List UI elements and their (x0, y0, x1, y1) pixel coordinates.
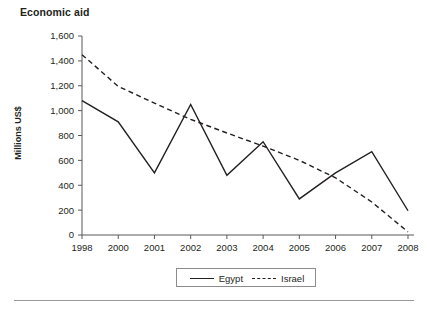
y-tick-label: 1,600 (50, 30, 74, 41)
solid-line-icon (190, 278, 214, 280)
y-tick-label: 200 (58, 205, 74, 216)
series-line-egypt (82, 101, 408, 211)
y-tick-label: 1,400 (50, 55, 74, 66)
y-tick-label: 1,200 (50, 80, 74, 91)
x-tick-label: 2003 (216, 242, 237, 253)
y-tick-label: 1,000 (50, 105, 74, 116)
y-tick-label: 0 (69, 229, 74, 240)
series-line-israel (82, 55, 408, 232)
legend-label-egypt: Egypt (219, 274, 243, 284)
y-tick-label: 400 (58, 180, 74, 191)
plot-area: 02004006008001,0001,2001,4001,600 199820… (0, 0, 427, 311)
x-tick-label: 2004 (253, 242, 274, 253)
y-axis-ticks: 02004006008001,0001,2001,4001,600 (50, 30, 82, 240)
x-axis-ticks: 1998200020012002200320042005200620072008 (71, 235, 418, 253)
legend-entry-egypt: Egypt (190, 274, 243, 284)
economic-aid-line-chart: Economic aid Millions US$ 02004006008001… (0, 0, 427, 311)
x-tick-label: 2001 (144, 242, 165, 253)
legend-entries: Egypt Israel (177, 269, 317, 288)
y-tick-label: 600 (58, 155, 74, 166)
y-tick-label: 800 (58, 130, 74, 141)
x-tick-label: 2008 (397, 242, 418, 253)
x-tick-label: 2007 (361, 242, 382, 253)
x-tick-label: 2006 (325, 242, 346, 253)
chart-legend: Egypt Israel (176, 268, 316, 287)
x-tick-label: 2005 (289, 242, 310, 253)
dashed-line-icon (252, 278, 276, 279)
legend-entry-israel: Israel (252, 274, 304, 284)
legend-label-israel: Israel (281, 274, 304, 284)
x-tick-label: 1998 (71, 242, 92, 253)
footer-divider (14, 300, 414, 301)
x-tick-label: 2002 (180, 242, 201, 253)
x-tick-label: 2000 (108, 242, 129, 253)
